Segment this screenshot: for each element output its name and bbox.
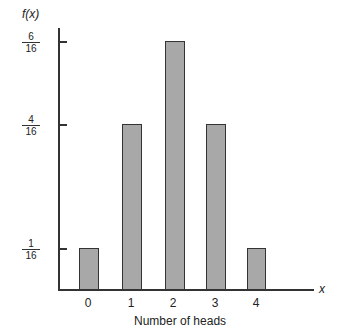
x-axis-end-label: x	[319, 282, 325, 296]
x-tick-label-0: 0	[78, 296, 98, 310]
x-tick-label-3: 3	[205, 296, 225, 310]
x-tick-label-4: 4	[246, 296, 266, 310]
y-tick-1-16	[58, 248, 67, 250]
bar-0	[79, 248, 99, 290]
y-tick-label-4-16: 4 16	[16, 114, 46, 137]
y-tick-4-16	[58, 124, 67, 126]
bar-4	[247, 248, 266, 290]
y-tick-label-6-16: 6 16	[16, 31, 46, 54]
y-tick-6-16	[58, 41, 67, 43]
y-axis-label: f(x)	[22, 7, 39, 21]
bar-2	[165, 41, 185, 290]
x-tick-label-1: 1	[121, 296, 141, 310]
bar-1	[122, 124, 142, 290]
x-axis-label: Number of heads	[134, 314, 226, 328]
bar-3	[206, 124, 226, 290]
x-tick-label-2: 2	[163, 296, 183, 310]
y-axis	[58, 28, 60, 290]
y-tick-label-1-16: 1 16	[16, 238, 46, 261]
